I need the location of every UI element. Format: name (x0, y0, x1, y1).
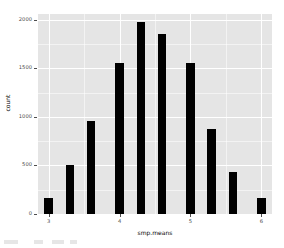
y-axis-tick-labels: 0500100015002000 (0, 14, 32, 214)
y-axis-tick-label: 500 (22, 163, 32, 168)
x-axis-tick-label: 3 (47, 219, 50, 224)
bar (257, 198, 266, 214)
y-axis-tick-mark (34, 165, 37, 166)
bar (66, 165, 75, 215)
x-axis-tick-mark (49, 214, 50, 217)
bar (186, 63, 195, 214)
y-axis-tick-mark (34, 20, 37, 21)
y-axis-tick-label: 1500 (19, 66, 32, 71)
y-axis-tick-label: 2000 (19, 17, 32, 22)
plot-panel (38, 14, 272, 214)
bar (115, 63, 124, 214)
bar (207, 129, 216, 214)
y-axis-tick-mark (34, 68, 37, 69)
y-axis-tick-mark (34, 117, 37, 118)
x-axis-tick-labels: 3456 (38, 219, 272, 228)
x-axis-tick-label: 5 (189, 219, 192, 224)
bar (137, 22, 146, 214)
x-axis-tick-mark (261, 214, 262, 217)
bar (44, 198, 53, 215)
bar (87, 121, 96, 214)
histogram-figure: count 0500100015002000 3456 smp.means (0, 0, 284, 248)
y-axis-tick-label: 0 (29, 211, 32, 216)
x-axis-tick-label: 6 (260, 219, 263, 224)
x-axis-tick-marks (38, 214, 272, 218)
y-axis-tick-label: 1000 (19, 114, 32, 119)
x-axis-tick-mark (120, 214, 121, 217)
y-axis-tick-mark (34, 214, 37, 215)
x-axis-tick-mark (190, 214, 191, 217)
x-axis-title: smp.means (38, 230, 272, 236)
bar-series (38, 14, 272, 214)
scan-artifact (4, 240, 184, 246)
bar (229, 172, 238, 214)
bar (158, 34, 167, 214)
x-axis-tick-label: 4 (118, 219, 121, 224)
